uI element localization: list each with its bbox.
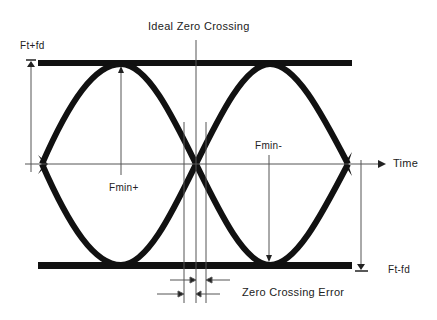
ft-minus-fd-label: Ft-fd xyxy=(388,264,410,275)
time-axis-label: Time xyxy=(393,157,418,169)
fmin-plus-label: Fmin+ xyxy=(109,182,139,193)
ft-minus-fd-arrow-icon xyxy=(357,264,365,270)
bottom-level-bar xyxy=(38,262,352,269)
fmin-minus-label: Fmin- xyxy=(255,140,282,151)
zero-crossing-error-label: Zero Crossing Error xyxy=(242,286,344,298)
time-axis-arrow-icon xyxy=(378,160,386,168)
fmin-minus-arrow-icon xyxy=(266,255,272,262)
ft-plus-fd-label: Ft+fd xyxy=(20,40,45,51)
zero-crossing-error-arrows xyxy=(157,277,230,297)
ft-plus-fd-arrow-icon xyxy=(27,61,35,67)
eye-diagram-graphic xyxy=(0,0,437,320)
eye-diagram: Ideal Zero Crossing Ft+fd Fmin+ Fmin- Ti… xyxy=(0,0,437,320)
top-level-bar xyxy=(38,60,352,66)
ideal-zero-crossing-label: Ideal Zero Crossing xyxy=(148,20,250,32)
